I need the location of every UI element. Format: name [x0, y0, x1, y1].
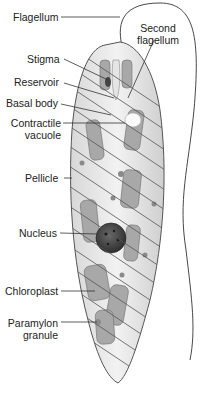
label-nucleus: Nucleus	[19, 227, 57, 239]
label-chloroplast: Chloroplast	[5, 285, 58, 297]
label-paramylon-granule: Paramylon granule	[4, 317, 58, 341]
euglena-diagram: Flagellum Second flagellum Stigma Reserv…	[0, 0, 203, 398]
label-second-flagellum-line1: Second	[136, 22, 180, 34]
label-flagellum: Flagellum	[13, 11, 59, 23]
label-contractile-vacuole-line2: vacuole	[4, 129, 61, 141]
label-basal-body: Basal body	[6, 97, 58, 109]
stigma-shape	[105, 77, 111, 87]
label-second-flagellum: Second flagellum	[136, 22, 180, 46]
label-paramylon-granule-line1: Paramylon	[4, 317, 58, 329]
label-contractile-vacuole: Contractile vacuole	[4, 117, 61, 141]
nucleus-shape	[96, 223, 126, 253]
label-stigma: Stigma	[27, 53, 60, 65]
label-contractile-vacuole-line1: Contractile	[4, 117, 61, 129]
label-second-flagellum-line2: flagellum	[136, 34, 180, 46]
label-paramylon-granule-line2: granule	[4, 329, 58, 341]
label-reservoir: Reservoir	[14, 76, 59, 88]
label-pellicle: Pellicle	[25, 172, 58, 184]
